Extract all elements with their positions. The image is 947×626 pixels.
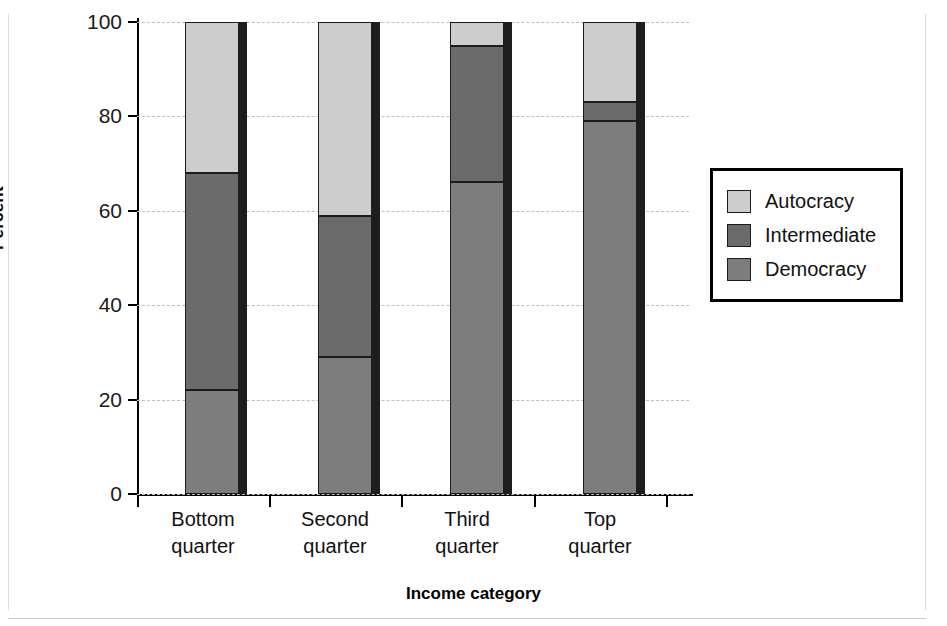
bar-segment-intermediate[interactable] bbox=[318, 216, 372, 358]
bar-segment-democracy[interactable] bbox=[450, 182, 504, 494]
y-tick-label-20: 20 bbox=[62, 389, 122, 410]
bar-segment-intermediate[interactable] bbox=[583, 102, 637, 121]
y-tick-label-80: 80 bbox=[62, 105, 122, 126]
y-tick-label-100: 100 bbox=[62, 11, 122, 32]
bar-shadow-face bbox=[504, 22, 512, 494]
y-tick-100 bbox=[128, 21, 137, 23]
y-axis-tick-labels: 020406080100 bbox=[52, 0, 122, 626]
page-rule-right bbox=[925, 14, 926, 610]
legend-label: Intermediate bbox=[765, 224, 876, 247]
bar-segment-autocracy[interactable] bbox=[583, 22, 637, 102]
bar-shadow-face bbox=[239, 22, 247, 494]
bar-segment-autocracy[interactable] bbox=[318, 22, 372, 216]
y-tick-60 bbox=[128, 210, 137, 212]
bar-group[interactable] bbox=[318, 22, 372, 494]
y-tick-0 bbox=[128, 493, 137, 495]
legend-item[interactable]: Democracy bbox=[727, 252, 890, 286]
bar-segment-democracy[interactable] bbox=[185, 390, 239, 494]
y-tick-label-0: 0 bbox=[62, 483, 122, 504]
legend-swatch-icon bbox=[727, 190, 751, 213]
chart-legend: AutocracyIntermediateDemocracy bbox=[710, 168, 903, 302]
bar-segment-autocracy[interactable] bbox=[450, 22, 504, 46]
page-rule-bottom bbox=[8, 618, 926, 619]
bar-group[interactable] bbox=[450, 22, 504, 494]
bar-shadow-face bbox=[372, 22, 380, 494]
y-tick-label-60: 60 bbox=[62, 200, 122, 221]
y-tick-80 bbox=[128, 115, 137, 117]
bar-segment-autocracy[interactable] bbox=[185, 22, 239, 173]
page-rule-left bbox=[8, 14, 9, 610]
legend-swatch-icon bbox=[727, 258, 751, 281]
legend-label: Democracy bbox=[765, 258, 866, 281]
legend-item[interactable]: Intermediate bbox=[727, 218, 890, 252]
x-category-label-line: Top bbox=[515, 506, 685, 533]
bar-segment-democracy[interactable] bbox=[318, 357, 372, 494]
x-axis-title: Income category bbox=[0, 584, 947, 604]
bar-group[interactable] bbox=[185, 22, 239, 494]
y-axis-title: Percent bbox=[0, 186, 8, 250]
bar-segment-intermediate[interactable] bbox=[185, 173, 239, 390]
y-tick-20 bbox=[128, 399, 137, 401]
bar-shadow-face bbox=[637, 22, 645, 494]
x-category-label-line: quarter bbox=[515, 533, 685, 560]
plot-area bbox=[137, 22, 689, 494]
bar-segment-democracy[interactable] bbox=[583, 121, 637, 494]
legend-label: Autocracy bbox=[765, 190, 854, 213]
chart-figure: 020406080100 Percent BottomquarterSecond… bbox=[0, 0, 947, 626]
bar-group[interactable] bbox=[583, 22, 637, 494]
bar-segment-intermediate[interactable] bbox=[450, 46, 504, 183]
gridline-y-0 bbox=[137, 494, 689, 495]
y-tick-label-40: 40 bbox=[62, 294, 122, 315]
legend-item[interactable]: Autocracy bbox=[727, 184, 890, 218]
legend-swatch-icon bbox=[727, 224, 751, 247]
x-category-label: Topquarter bbox=[515, 506, 685, 560]
y-tick-40 bbox=[128, 304, 137, 306]
